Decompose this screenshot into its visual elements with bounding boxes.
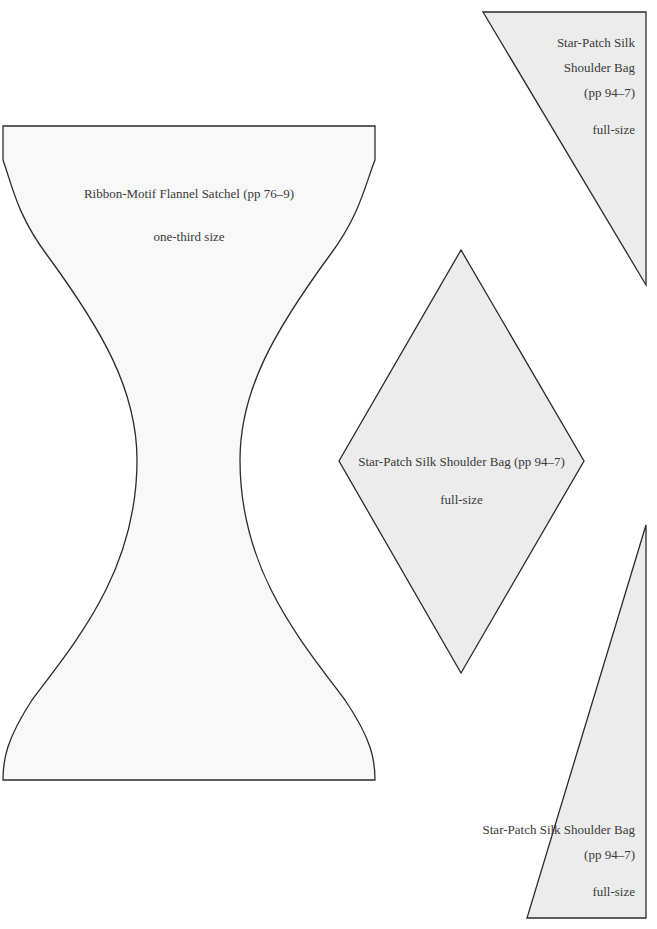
diamond-scale: full-size xyxy=(339,488,584,511)
triangle-top-scale: full-size xyxy=(592,118,635,141)
triangle-top-title-line-1: Star-Patch Silk xyxy=(557,31,635,54)
triangle-top-title-line-2: Shoulder Bag xyxy=(564,56,635,79)
triangle-bottom-title-line-1: Star-Patch Silk Shoulder Bag xyxy=(483,818,635,841)
satchel-scale: one-third size xyxy=(3,225,375,248)
satchel-title: Ribbon-Motif Flannel Satchel (pp 76–9) xyxy=(3,182,375,205)
triangle-top-title-line-3: (pp 94–7) xyxy=(584,81,635,104)
triangle-bottom-scale: full-size xyxy=(592,880,635,903)
diamond-title: Star-Patch Silk Shoulder Bag (pp 94–7) xyxy=(339,450,584,473)
triangle-bottom-title-line-2: (pp 94–7) xyxy=(584,843,635,866)
